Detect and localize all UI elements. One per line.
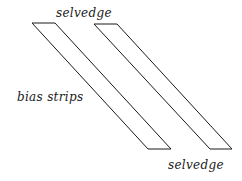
bias-strips-diagram: selvedge bias strips selvedge [0,0,242,181]
bias-strip-1 [32,23,171,149]
selvedge-top-label: selvedge [56,6,112,20]
selvedge-bottom-label: selvedge [168,158,224,172]
bias-strip-2 [94,24,232,149]
bias-strips-label: bias strips [17,90,83,104]
